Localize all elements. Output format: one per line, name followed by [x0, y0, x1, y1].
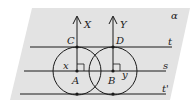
point-b [111, 69, 114, 72]
geometry-diagram: α t s t' X Y C D x y A B [0, 0, 190, 108]
label-alpha: α [171, 10, 178, 21]
label-s: s [163, 60, 168, 71]
label-D: D [115, 35, 124, 46]
point-c [75, 45, 78, 48]
label-y: y [121, 69, 128, 80]
label-x: x [63, 60, 69, 71]
point-d [111, 45, 114, 48]
point-a [75, 69, 78, 72]
label-B: B [107, 75, 115, 86]
point-a-prime [75, 92, 78, 95]
label-C: C [67, 35, 75, 46]
label-t-prime: t' [162, 83, 169, 94]
label-A: A [71, 75, 79, 86]
point-b-prime [111, 92, 114, 95]
label-X: X [83, 19, 92, 30]
